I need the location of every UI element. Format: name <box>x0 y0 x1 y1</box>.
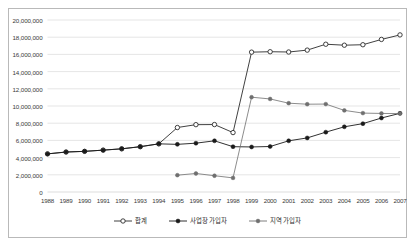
y-tick-label: 6,000,000 <box>0 137 43 144</box>
y-tick-label: 14,000,000 <box>0 68 43 75</box>
y-tick-label: 12,000,000 <box>0 85 43 92</box>
y-tick-label: 8,000,000 <box>0 120 43 127</box>
chart-figure: 02,000,0004,000,0006,000,0008,000,00010,… <box>0 0 415 246</box>
x-tick-label: 2003 <box>319 197 332 204</box>
data-point-filled-circle <box>176 219 180 223</box>
x-tick-label: 1988 <box>41 197 54 204</box>
x-tick-label: 1992 <box>115 197 128 204</box>
legend-item[interactable]: 합계 <box>114 216 147 225</box>
legend-marker-open-circle <box>114 217 132 225</box>
legend-marker-gray-circle <box>249 217 267 225</box>
x-tick-label: 2000 <box>264 197 277 204</box>
x-tick-label: 2001 <box>282 197 295 204</box>
x-tick-label: 1989 <box>60 197 73 204</box>
legend-label: 사업장 가입자 <box>190 216 227 225</box>
data-point-open-circle <box>121 218 125 222</box>
y-tick-label: 2,000,000 <box>0 171 43 178</box>
legend-marker-filled-circle <box>169 217 187 225</box>
y-tick-label: 4,000,000 <box>0 154 43 161</box>
x-tick-label: 1996 <box>189 197 202 204</box>
legend-item[interactable]: 지역 가입자 <box>249 216 301 225</box>
y-tick-label: 18,000,000 <box>0 34 43 41</box>
legend-item[interactable]: 사업장 가입자 <box>169 216 227 225</box>
x-tick-label: 1995 <box>171 197 184 204</box>
y-tick-label: 10,000,000 <box>0 103 43 110</box>
y-tick-label: 20,000,000 <box>0 17 43 24</box>
legend-label: 합계 <box>135 216 147 225</box>
y-tick-label: 16,000,000 <box>0 51 43 58</box>
x-tick-label: 2005 <box>356 197 369 204</box>
x-tick-label: 2006 <box>375 197 388 204</box>
x-tick-label: 1991 <box>97 197 110 204</box>
x-tick-label: 1997 <box>208 197 221 204</box>
x-tick-label: 1998 <box>227 197 240 204</box>
x-tick-label: 1993 <box>134 197 147 204</box>
y-tick-label: 0 <box>0 189 43 196</box>
x-tick-label: 2004 <box>338 197 351 204</box>
x-tick-label: 1994 <box>152 197 165 204</box>
data-point-gray-circle <box>256 219 260 223</box>
legend-label: 지역 가입자 <box>270 216 301 225</box>
x-tick-label: 2002 <box>301 197 314 204</box>
chart-legend: 합계사업장 가입자지역 가입자 <box>0 216 415 225</box>
x-tick-label: 2007 <box>394 197 407 204</box>
x-tick-label: 1990 <box>78 197 91 204</box>
x-tick-label: 1999 <box>245 197 258 204</box>
